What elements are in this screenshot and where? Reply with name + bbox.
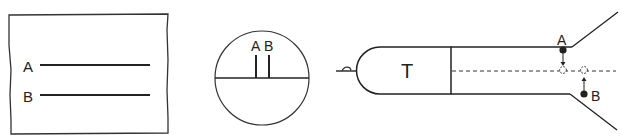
line-a-label: A <box>23 58 33 75</box>
panel-circle-view: A B <box>215 31 309 125</box>
point-b-projection <box>581 67 588 74</box>
panel-tube: T A B <box>336 12 618 130</box>
tube-body-label: T <box>401 60 413 82</box>
point-a-label: A <box>557 32 567 48</box>
diagram-canvas: A B A B T A B <box>0 0 621 139</box>
arrow-a-head-icon <box>561 62 566 66</box>
point-a-projection <box>560 67 567 74</box>
arrow-b-head-icon <box>582 77 587 81</box>
tick-b-label: B <box>264 38 273 54</box>
wire-hook-icon <box>336 67 357 71</box>
point-b-dot <box>580 90 587 97</box>
flare-top <box>572 12 618 47</box>
point-b-label: B <box>591 88 600 104</box>
panel-film: A B <box>9 14 168 134</box>
line-b-label: B <box>23 88 33 105</box>
tick-a-label: A <box>251 38 261 54</box>
